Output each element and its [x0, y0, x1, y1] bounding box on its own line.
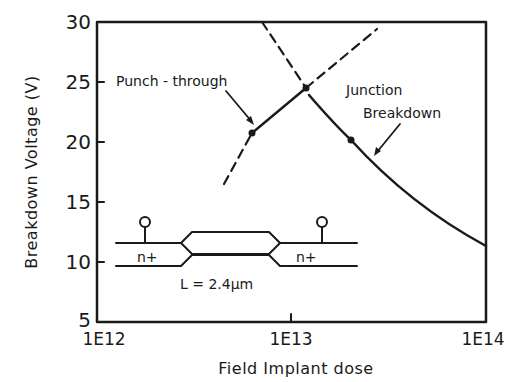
junction-label-line2: Breakdown — [363, 105, 441, 121]
inset-left-contact-icon — [140, 217, 150, 227]
x-tick-1e13: 1E13 — [269, 329, 312, 349]
inset-n-plus-right: n+ — [296, 249, 317, 265]
inset-n-plus-left: n+ — [137, 249, 158, 265]
series-punch-through — [224, 29, 377, 184]
junction-arrow-line — [377, 124, 400, 152]
punch-through-arrow-line — [226, 91, 252, 122]
punch-through-dashed-upper — [306, 29, 377, 88]
junction-label-line1: Junction — [345, 82, 402, 98]
x-axis-tick-labels: 1E12 1E13 1E14 — [82, 329, 504, 349]
punch-through-marker — [249, 130, 256, 137]
inset-oxide-bottom — [181, 243, 280, 254]
x-tick-1e12: 1E12 — [82, 329, 125, 349]
punch-through-label: Punch - through — [116, 73, 227, 89]
punch-through-dashed-lower — [224, 133, 252, 184]
y-tick-30: 30 — [66, 10, 91, 34]
punch-through-solid — [252, 88, 306, 133]
inset-right-contact-icon — [317, 217, 327, 227]
breakdown-voltage-chart: 30 25 20 15 10 5 1E12 1E13 1E14 Field Im… — [0, 0, 526, 382]
y-tick-20: 20 — [66, 130, 91, 154]
x-axis-title: Field Implant dose — [218, 359, 373, 378]
y-tick-15: 15 — [66, 190, 91, 214]
intersection-marker — [303, 85, 310, 92]
inset-length-label: L = 2.4µm — [180, 276, 253, 292]
series-junction-breakdown — [262, 22, 486, 246]
y-tick-10: 10 — [66, 250, 91, 274]
y-axis-tick-labels: 30 25 20 15 10 5 — [66, 10, 91, 332]
inset-device-diagram: n+ n+ L = 2.4µm — [116, 217, 357, 292]
x-tick-1e14: 1E14 — [461, 329, 504, 349]
y-tick-25: 25 — [66, 70, 91, 94]
junction-dashed-extension — [262, 22, 306, 88]
y-axis-title: Breakdown Voltage (V) — [22, 75, 41, 268]
inset-oxide-top — [116, 232, 357, 243]
junction-marker — [348, 137, 355, 144]
